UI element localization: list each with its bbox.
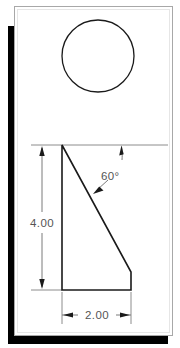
drawing-page: 4.00 2.00 60°	[0, 0, 180, 348]
width-dimension-text: 2.00	[85, 309, 109, 321]
technical-drawing-canvas: 4.00 2.00 60°	[0, 0, 180, 348]
page-sheet	[14, 6, 173, 336]
page-shadow-bottom	[8, 335, 168, 344]
angle-dimension-text: 60°	[101, 170, 120, 182]
height-dimension-text: 4.00	[30, 217, 54, 229]
